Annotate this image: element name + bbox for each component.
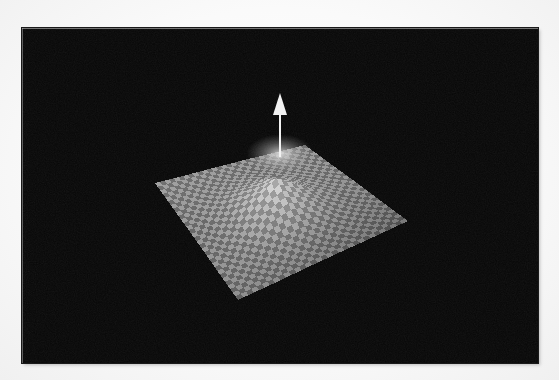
- plot-panel: [22, 28, 538, 363]
- surface-shading: [155, 145, 408, 300]
- arrow-head-icon: [273, 93, 287, 115]
- figure-root: Grayscale 3D surface mesh plot with a ce…: [0, 0, 559, 380]
- surface-plot-svg: [22, 28, 538, 363]
- surface-scene: [22, 28, 538, 363]
